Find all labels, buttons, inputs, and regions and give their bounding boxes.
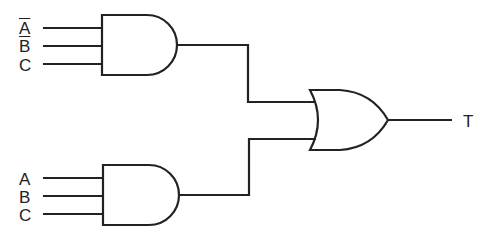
label-c-top: C xyxy=(19,57,31,74)
logic-circuit xyxy=(0,0,485,243)
label-b: B xyxy=(19,189,30,206)
label-a: A xyxy=(19,171,30,188)
label-c-bottom: C xyxy=(19,207,31,224)
label-not-b: B xyxy=(19,38,30,55)
or-gate xyxy=(310,90,388,150)
label-not-a: A xyxy=(19,20,30,37)
wire-and1-to-or xyxy=(177,45,316,102)
and-gate-bottom xyxy=(103,165,179,225)
label-output-t: T xyxy=(463,113,473,130)
wire-and2-to-or xyxy=(179,139,316,195)
and-gate-top xyxy=(102,15,177,75)
